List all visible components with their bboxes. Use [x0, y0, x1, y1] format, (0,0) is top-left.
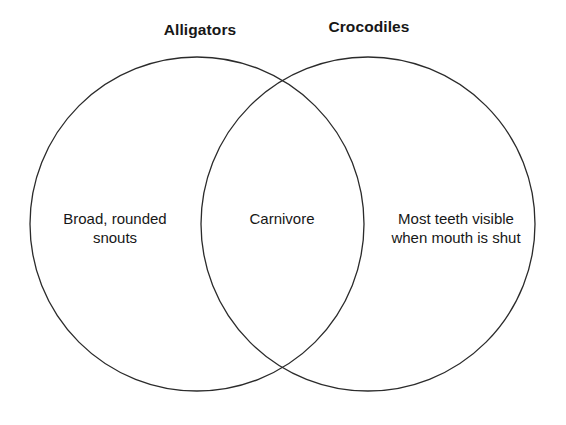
region-text-alligators-only: Broad, rounded snouts: [25, 209, 205, 247]
region-text-intersection: Carnivore: [217, 209, 347, 228]
set-title-crocodiles: Crocodiles: [328, 18, 409, 36]
venn-diagram-canvas: Alligators Crocodiles Broad, rounded sno…: [0, 0, 566, 425]
region-text-crocodiles-only: Most teeth visible when mouth is shut: [366, 209, 546, 247]
set-title-alligators: Alligators: [164, 21, 236, 39]
